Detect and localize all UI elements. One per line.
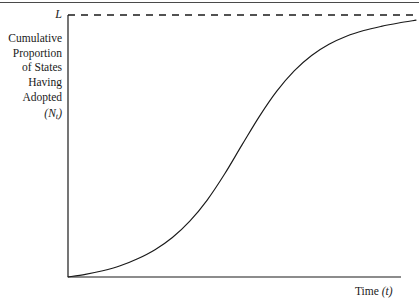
plot-area: [0, 0, 419, 301]
figure-container: L Cumulative Proportion of States Having…: [0, 0, 419, 301]
adoption-s-curve: [68, 20, 416, 277]
